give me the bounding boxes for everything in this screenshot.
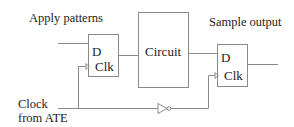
ff2-clk-label: Clk [224, 69, 243, 83]
ff1-d-label: D [92, 45, 101, 59]
diagram-canvas: Apply patterns Sample output Clock from … [0, 0, 294, 127]
circuit-label: Circuit [145, 45, 181, 59]
ff2-clock-wire [171, 76, 215, 109]
inverter-icon [158, 104, 167, 114]
ff2-d-label: D [221, 51, 230, 65]
clock-label-line2: from ATE [18, 111, 68, 125]
ff1-clock-wire [79, 67, 87, 109]
ff1-clk-label: Clk [95, 60, 114, 74]
sample-output-label: Sample output [209, 15, 282, 29]
apply-patterns-label: Apply patterns [29, 11, 103, 25]
clock-label-line1: Clock [18, 97, 48, 111]
